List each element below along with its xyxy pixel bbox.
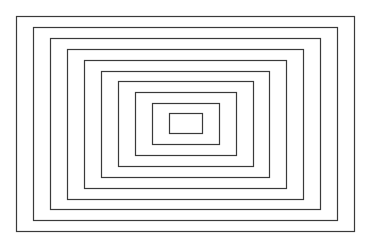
rectangle-7 bbox=[119, 82, 254, 167]
rectangle-3 bbox=[51, 39, 321, 210]
nested-rectangles-diagram bbox=[0, 0, 366, 238]
rectangle-8 bbox=[136, 93, 237, 156]
rectangle-6 bbox=[102, 72, 270, 178]
rectangle-9 bbox=[153, 104, 220, 145]
rectangle-2 bbox=[34, 28, 338, 221]
rectangle-10 bbox=[170, 114, 203, 134]
rectangle-5 bbox=[85, 61, 287, 189]
